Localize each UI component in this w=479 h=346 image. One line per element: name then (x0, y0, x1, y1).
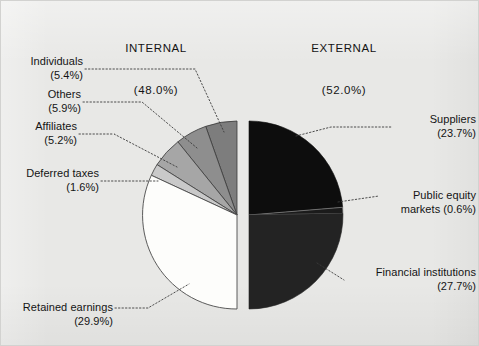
slice-label-individuals: Individuals (5.4%) (1, 55, 83, 82)
leader-line-affiliates (79, 134, 177, 167)
slice-label-others: Others (5.9%) (1, 88, 81, 115)
group-label-external-name: EXTERNAL (289, 41, 399, 55)
slice-label-suppliers: Suppliers (23.7%) (380, 113, 476, 140)
group-label-external: EXTERNAL (52.0%) (289, 13, 399, 125)
leader-line-suppliers (296, 127, 392, 136)
slice-label-deferred-taxes: Deferred taxes (1.6%) (1, 167, 99, 194)
group-label-external-value: (52.0%) (289, 83, 399, 97)
slice-label-affiliates: Affiliates (5.2%) (1, 120, 77, 147)
slice-label-financial-institutions: Financial institutions (27.7%) (340, 266, 476, 293)
group-label-internal-value: (48.0%) (101, 83, 211, 97)
chart-figure: INTERNAL (48.0%) EXTERNAL (52.0%) Indivi… (0, 0, 479, 346)
group-label-internal: INTERNAL (48.0%) (101, 13, 211, 125)
leader-line-retained-earnings (115, 284, 189, 308)
slice-label-retained-earnings: Retained earnings (29.9%) (1, 301, 113, 328)
group-label-internal-name: INTERNAL (101, 41, 211, 55)
slice-label-public-equity-markets: Public equity markets (0.6%) (368, 189, 476, 216)
